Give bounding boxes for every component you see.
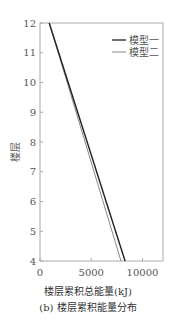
x-tick-label: 0 [37, 267, 43, 278]
y-tick-label: 10 [23, 77, 36, 88]
y-tick-label: 8 [30, 137, 36, 148]
legend: 模型一 模型二 [112, 34, 159, 58]
y-tick-label: 7 [30, 166, 36, 177]
plot-frame [40, 23, 163, 261]
data-lines [49, 23, 125, 261]
x-axis-label: 楼层累积总能量(kJ) [0, 283, 176, 298]
y-tick-label: 12 [23, 18, 36, 29]
y-tick-label: 11 [23, 47, 36, 58]
x-tick-label: 5000 [79, 267, 104, 278]
y-tick-label: 6 [30, 196, 36, 207]
line-chart: 456789101112 0500010000 模型一 模型二 楼层 [0, 0, 176, 321]
legend-label-model-2: 模型二 [129, 46, 159, 58]
legend-label-model-1: 模型一 [129, 34, 159, 46]
y-tick-label: 4 [30, 256, 36, 267]
y-tick-label: 9 [30, 107, 36, 118]
y-axis-label: 楼层 [9, 142, 21, 162]
figure-caption: (b) 楼层累积能量分布 [0, 299, 176, 314]
x-tick-label: 10000 [127, 267, 159, 278]
y-tick-label: 5 [30, 226, 36, 237]
series-line [49, 23, 125, 261]
